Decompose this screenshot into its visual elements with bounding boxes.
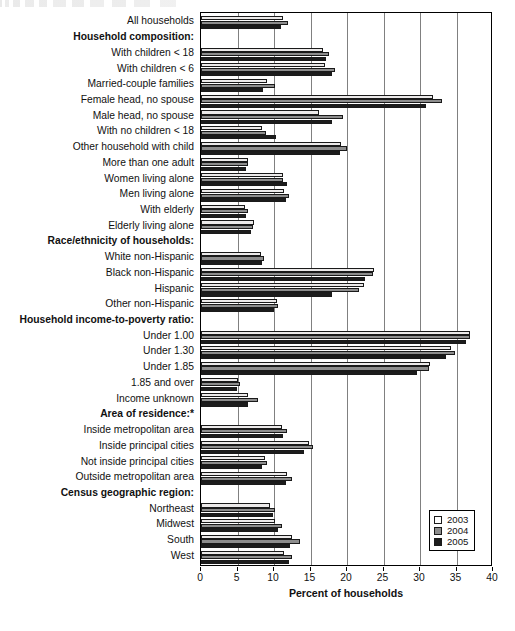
legend-label: 2005 [447, 537, 468, 547]
plot-area [200, 12, 492, 566]
bar-2003 [201, 126, 262, 130]
tick-label-35: 35 [450, 572, 461, 583]
bar-2003 [201, 189, 284, 193]
legend-item-2003[interactable]: 2003 [434, 514, 468, 525]
bar-2005 [201, 57, 326, 61]
bar-2004 [201, 335, 470, 339]
tick-label-15: 15 [304, 572, 315, 583]
category-label: All households [127, 16, 194, 26]
category-label: Income unknown [116, 394, 194, 404]
category-label: South [167, 535, 194, 545]
bar-2004 [201, 539, 300, 543]
tick-label-25: 25 [377, 572, 388, 583]
bar-2003 [201, 346, 451, 350]
bar-2004 [201, 194, 289, 198]
bar-2005 [201, 277, 365, 281]
category-group-header: Household composition: [73, 32, 194, 42]
bar-2003 [201, 268, 374, 272]
category-label: Under 1.85 [143, 362, 194, 372]
bar-2003 [201, 472, 287, 476]
category-label: With elderly [140, 205, 194, 215]
category-label: White non-Hispanic [105, 252, 194, 262]
tick-label-0: 0 [197, 572, 203, 583]
category-label: Inside principal cities [99, 441, 194, 451]
category-label: Female head, no spouse [81, 95, 194, 105]
category-label: Elderly living alone [108, 221, 194, 231]
bar-2003 [201, 503, 270, 507]
tick-label-40: 40 [486, 572, 497, 583]
tick-mark-35 [456, 567, 457, 571]
category-label: Under 1.30 [143, 346, 194, 356]
bar-2005 [201, 340, 466, 344]
bar-2004 [201, 131, 266, 135]
tick-mark-0 [200, 567, 201, 571]
bar-2004 [201, 68, 335, 72]
category-group-header: Census geographic region: [61, 488, 194, 498]
bar-2004 [201, 256, 264, 260]
bar-2003 [201, 220, 254, 224]
bar-2003 [201, 378, 238, 382]
bar-2005 [201, 292, 332, 296]
bar-2003 [201, 283, 364, 287]
bar-2005 [201, 513, 273, 517]
bar-2004 [201, 351, 455, 355]
bar-2005 [201, 355, 446, 359]
category-label: Men living alone [120, 189, 194, 199]
bar-2005 [201, 465, 262, 469]
bar-2005 [201, 25, 281, 29]
tick-mark-20 [346, 567, 347, 571]
bar-2004 [201, 52, 329, 56]
bar-2004 [201, 382, 240, 386]
bar-2004 [201, 288, 359, 292]
bar-2004 [201, 84, 275, 88]
bar-2004 [201, 398, 258, 402]
gridline-35 [457, 13, 458, 565]
legend-item-2005[interactable]: 2005 [434, 536, 468, 547]
bar-2005 [201, 481, 286, 485]
chart-container: All householdsHousehold composition:With… [0, 0, 515, 631]
legend-label: 2004 [447, 526, 468, 536]
bar-2005 [201, 450, 304, 454]
category-label: 1.85 and over [131, 378, 194, 388]
category-label: With children < 6 [117, 64, 194, 74]
legend-swatch-icon-2005 [434, 538, 442, 546]
category-label: Midwest [156, 519, 194, 529]
category-group-header: Area of residence:* [100, 409, 194, 419]
category-label: Black non-Hispanic [106, 268, 194, 278]
bar-2004 [201, 524, 282, 528]
bar-2003 [201, 16, 283, 20]
bar-2004 [201, 304, 278, 308]
bar-2005 [201, 371, 417, 375]
bar-2005 [201, 214, 246, 218]
bar-2003 [201, 205, 245, 209]
category-label: Male head, no spouse [93, 111, 194, 121]
bar-2004 [201, 99, 442, 103]
bar-2003 [201, 142, 341, 146]
bar-2005 [201, 544, 290, 548]
bar-2005 [201, 308, 274, 312]
category-group-header: Race/ethnicity of households: [48, 236, 194, 246]
bar-2003 [201, 252, 261, 256]
bar-2005 [201, 230, 251, 234]
x-axis-title: Percent of households [200, 587, 492, 599]
bar-2005 [201, 104, 426, 108]
chart-legend: 200320042005 [429, 510, 475, 551]
bar-2003 [201, 331, 470, 335]
tick-label-30: 30 [413, 572, 424, 583]
legend-item-2004[interactable]: 2004 [434, 525, 468, 536]
bar-2004 [201, 162, 248, 166]
bar-2005 [201, 167, 246, 171]
category-label: West [171, 551, 194, 561]
category-label: Hispanic [155, 284, 195, 294]
category-label: Not inside principal cities [81, 457, 194, 467]
bar-2005 [201, 434, 283, 438]
bar-2003 [201, 158, 248, 162]
bar-2003 [201, 362, 430, 366]
bar-2004 [201, 445, 313, 449]
bar-2004 [201, 508, 275, 512]
category-label: Women living alone [104, 174, 194, 184]
category-label: Outside metropolitan area [76, 472, 194, 482]
tick-mark-40 [492, 567, 493, 571]
bar-2004 [201, 209, 248, 213]
bar-2003 [201, 551, 284, 555]
